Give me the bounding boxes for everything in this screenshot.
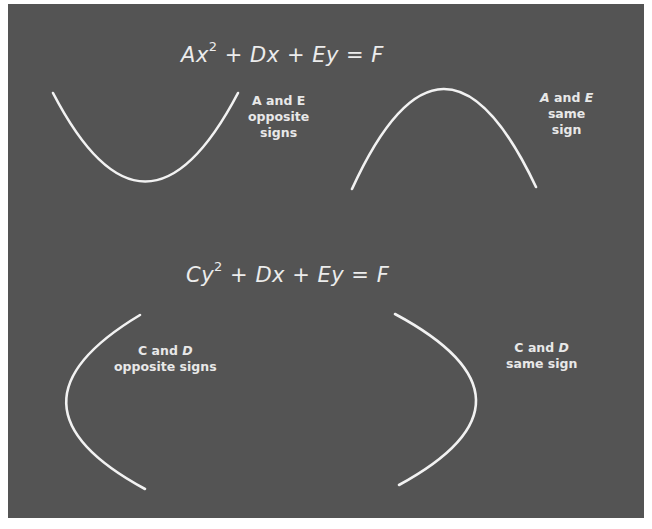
eq-exponent: 2: [214, 259, 223, 274]
label-line: same: [540, 106, 593, 122]
eq-coef: A: [181, 43, 196, 67]
label-var: D: [559, 340, 569, 355]
label-var: C: [514, 340, 523, 355]
label-top-left: A and E opposite signs: [248, 93, 309, 141]
label-line: sign: [540, 122, 593, 138]
eq-equals: =: [346, 43, 364, 67]
eq-rhs: F: [377, 263, 390, 287]
label-top-right: A and E same sign: [540, 90, 593, 138]
eq-plus: +: [230, 263, 248, 287]
eq-coef: C: [186, 263, 201, 287]
label-var: E: [585, 90, 594, 105]
eq-term-dx: Dx: [255, 263, 285, 287]
label-and: and: [266, 93, 292, 108]
parabola-opening-down: [352, 89, 536, 189]
label-bottom-left: C and D opposite signs: [114, 343, 217, 375]
label-and: and: [528, 340, 554, 355]
equation-bottom: Cy2 + Dx + Ey = F: [186, 262, 389, 287]
eq-var: x: [196, 43, 209, 67]
label-var: E: [297, 93, 306, 108]
eq-plus: +: [287, 43, 305, 67]
label-bottom-right: C and D same sign: [506, 340, 577, 372]
label-line: opposite signs: [114, 359, 217, 375]
eq-term-ey: Ey: [317, 263, 344, 287]
label-line: signs: [248, 125, 309, 141]
label-var: C: [138, 343, 147, 358]
label-and: and: [554, 90, 580, 105]
eq-equals: =: [351, 263, 369, 287]
label-var: A: [252, 93, 262, 108]
eq-term-dx: Dx: [250, 43, 280, 67]
parabola-opening-left: [395, 314, 476, 485]
label-var: D: [182, 343, 192, 358]
eq-var: y: [201, 263, 214, 287]
eq-term-ey: Ey: [312, 43, 339, 67]
parabola-opening-up: [53, 93, 238, 182]
label-line: same sign: [506, 356, 577, 372]
parabola-opening-right: [66, 315, 145, 489]
eq-plus: +: [225, 43, 243, 67]
label-and: and: [152, 343, 178, 358]
eq-exponent: 2: [209, 39, 218, 54]
eq-rhs: F: [371, 43, 384, 67]
label-var: A: [540, 90, 550, 105]
eq-plus: +: [292, 263, 310, 287]
equation-top: Ax2 + Dx + Ey = F: [181, 42, 384, 67]
label-line: opposite: [248, 109, 309, 125]
